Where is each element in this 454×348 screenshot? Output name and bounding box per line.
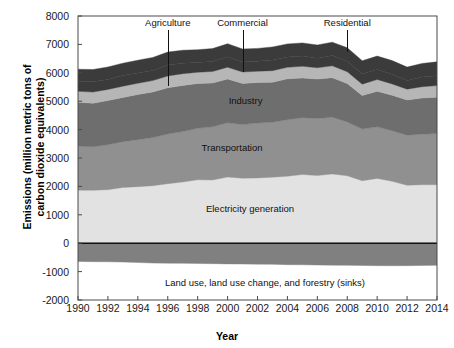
y-axis-title-line1: Emissions (million metric tons of: [21, 64, 33, 229]
leader-line-residential: [347, 30, 348, 52]
leader-line-agriculture: [168, 30, 169, 86]
leader-line-commercial: [243, 30, 244, 72]
y-tick-label: 4000: [9, 124, 69, 136]
y-tick-label: 8000: [9, 10, 69, 22]
series-label-commercial: Commercial: [217, 17, 268, 28]
y-tick-label: 7000: [9, 38, 69, 50]
y-tick-label: 0: [9, 237, 69, 249]
x-tick-label: 2014: [417, 302, 454, 314]
series-label-residential: Residential: [324, 17, 371, 28]
stacked-area-chart-figure: Emissions (million metric tons ofcarbon …: [0, 0, 454, 348]
series-label-agriculture: Agriculture: [145, 17, 190, 28]
series-label-land-use-sinks: Land use, land use change, and forestry …: [165, 276, 365, 287]
x-axis-title: Year: [0, 330, 454, 342]
y-tick-label: 1000: [9, 209, 69, 221]
y-tick-label: -1000: [9, 266, 69, 278]
y-tick-label: 5000: [9, 95, 69, 107]
series-label-transportation: Transportation: [202, 141, 263, 152]
series-label-electricity-generation: Electricity generation: [206, 202, 294, 213]
y-tick-label: 3000: [9, 152, 69, 164]
y-tick-label: 2000: [9, 180, 69, 192]
series-label-industry: Industry: [229, 94, 263, 105]
y-tick-label: 6000: [9, 67, 69, 79]
